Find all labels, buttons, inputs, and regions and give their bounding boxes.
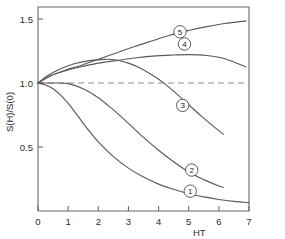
y-tick-label-0.5: 0.5 [20,142,33,153]
series-marker-label-1: 1 [188,187,193,196]
x-tick-label-6: 6 [216,216,221,227]
series-marker-label-3: 3 [180,101,185,110]
chart-canvas: 12345 012345670.51.01.5HTS(H)/S(0) [0,0,285,239]
x-tick-label-2: 2 [96,216,101,227]
series-marker-label-4: 4 [182,40,187,49]
x-tick-label-7: 7 [246,216,251,227]
chart-background [0,0,285,239]
x-tick-label-3: 3 [126,216,131,227]
x-tick-label-0: 0 [35,216,40,227]
series-marker-label-5: 5 [178,28,183,37]
x-tick-label-1: 1 [65,216,70,227]
series-marker-label-2: 2 [190,166,195,175]
y-tick-label-1.0: 1.0 [20,78,33,89]
y-tick-label-1.5: 1.5 [20,14,33,25]
x-tick-label-4: 4 [156,216,161,227]
x-tick-label-5: 5 [186,216,191,227]
chart-figure: 12345 012345670.51.01.5HTS(H)/S(0) [0,0,285,239]
y-axis-title: S(H)/S(0) [4,92,15,132]
x-axis-title: HT [193,227,206,238]
